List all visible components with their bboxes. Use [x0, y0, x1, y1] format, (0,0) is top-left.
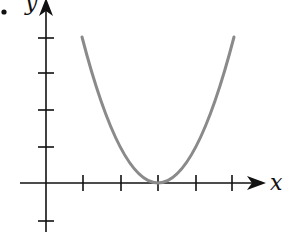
bullet-dot	[1, 9, 6, 14]
x-axis-label: x	[270, 170, 283, 195]
parabola-curve	[82, 37, 234, 183]
y-axis-label: y	[24, 0, 38, 15]
y-axis: y	[24, 0, 54, 232]
parabola-chart: x y	[0, 0, 284, 232]
